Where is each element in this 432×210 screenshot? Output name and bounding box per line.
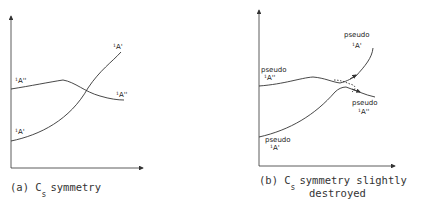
label-lower-right-a: 1A'' [116, 91, 128, 99]
label-upper-right-a: 1A' [113, 43, 123, 51]
caption-a: (a) Cssymmetry [10, 181, 101, 199]
caption-b-line2: destroyed [309, 187, 366, 199]
label-upper-right-b-prefix: pseudo [344, 31, 370, 39]
label-upper-left-b: 1A'' [264, 74, 276, 82]
panel-a: 1A'' 1A' 1A' 1A'' (a) Cssymmetry [10, 16, 143, 199]
arrow-lower [352, 89, 360, 92]
label-lower-left-b: 1A' [270, 144, 280, 152]
label-lower-right-b: 1A'' [358, 108, 370, 116]
arrow-upper [350, 75, 356, 79]
panel-b: pseudo 1A'' pseudo 1A' pseudo 1A' pseudo… [259, 10, 407, 199]
label-upper-left-b-prefix: pseudo [261, 66, 287, 74]
label-upper-left-a: 1A'' [15, 77, 27, 85]
label-lower-right-b-prefix: pseudo [352, 99, 378, 107]
diagram-canvas: 1A'' 1A' 1A' 1A'' (a) Cssymmetry pseudo … [0, 0, 432, 210]
label-lower-left-a: 1A' [15, 128, 25, 136]
label-upper-right-b: 1A' [352, 42, 362, 50]
curve-upper-a [11, 80, 124, 100]
curve-lower-a [11, 52, 121, 141]
label-lower-left-b-prefix: pseudo [265, 136, 291, 144]
